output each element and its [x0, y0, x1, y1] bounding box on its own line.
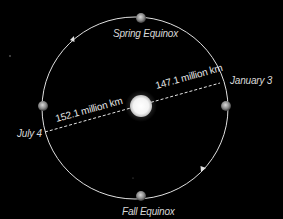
- earth-icon-spring: [136, 13, 146, 23]
- earth-icon-july: [38, 101, 48, 111]
- july-label: July 4: [17, 129, 42, 139]
- orbit-diagram: Spring Equinox Fall Equinox January 3 Ju…: [0, 0, 283, 219]
- fall-equinox-label: Fall Equinox: [122, 207, 175, 217]
- earth-icon-fall: [136, 191, 146, 201]
- sun-icon: [130, 95, 152, 117]
- spring-equinox-label: Spring Equinox: [113, 29, 178, 39]
- star-icon: [132, 177, 133, 178]
- star-icon: [9, 55, 11, 57]
- orbit-arrow-icon: [201, 166, 207, 172]
- earth-icon-january: [221, 101, 231, 111]
- january-label: January 3: [230, 76, 272, 86]
